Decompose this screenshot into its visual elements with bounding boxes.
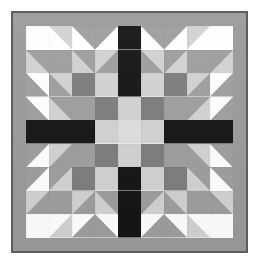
quilt-patch [187,73,210,97]
quilt-patch [118,73,141,97]
quilt-patch [72,214,95,238]
quilt-patch [118,97,141,121]
quilt-patch [118,26,141,50]
quilt-patch [72,191,95,215]
quilt-patch [164,50,187,74]
quilt-patch [95,73,118,97]
quilt-patch [164,191,187,215]
quilt-patch [187,214,210,238]
quilt-patch [49,191,72,215]
quilt-patch [141,167,164,191]
quilt-patch [187,144,210,168]
quilt-patch [187,191,210,215]
quilt-patch [118,191,141,215]
quilt-patch [72,26,95,50]
quilt-patch [26,144,49,168]
quilt-patch [210,214,233,238]
quilt-patch [164,120,187,144]
quilt-patch [72,120,95,144]
quilt-patch [118,50,141,74]
page-canvas [0,0,260,263]
quilt-patch [210,97,233,121]
quilt-patch [141,120,164,144]
quilt-patch [187,120,210,144]
quilt-patch [118,120,141,144]
quilt-patch [49,97,72,121]
quilt-patch [141,97,164,121]
quilt-patch [49,26,72,50]
quilt-patch [210,120,233,144]
quilt-patch [72,50,95,74]
quilt-patch [49,73,72,97]
quilt-patch [26,26,49,50]
quilt-patch [141,26,164,50]
quilt-patch [210,191,233,215]
quilt-patch [187,50,210,74]
quilt-patch [49,50,72,74]
quilt-patch [187,167,210,191]
quilt-frame [11,11,248,253]
quilt-patch [210,167,233,191]
quilt-patch [95,26,118,50]
quilt-patch [187,26,210,50]
quilt-patch [95,214,118,238]
quilt-patch [210,26,233,50]
quilt-patch [164,97,187,121]
quilt-patch [72,73,95,97]
quilt-patch [72,97,95,121]
quilt-patch [26,73,49,97]
quilt-patch [141,191,164,215]
quilt-patch [72,144,95,168]
quilt-patch [210,73,233,97]
quilt-patch [72,167,95,191]
quilt-patch-grid [26,26,233,238]
quilt-patch [118,214,141,238]
quilt-patch [49,144,72,168]
quilt-patch [26,191,49,215]
quilt-patch [141,50,164,74]
quilt-patch [118,167,141,191]
quilt-patch [49,167,72,191]
quilt-patch [141,214,164,238]
quilt-patch [49,120,72,144]
quilt-patch [210,144,233,168]
quilt-patch [26,167,49,191]
quilt-patch [95,144,118,168]
quilt-patch [187,97,210,121]
quilt-patch [95,120,118,144]
quilt-border-band [13,13,246,251]
quilt-patch [95,167,118,191]
quilt-patch [95,191,118,215]
quilt-patch [49,214,72,238]
quilt-patch [95,50,118,74]
quilt-patch [210,50,233,74]
quilt-patch [141,144,164,168]
quilt-patch [164,144,187,168]
quilt-patch [118,144,141,168]
quilt-patch [164,167,187,191]
quilt-patch [164,26,187,50]
quilt-patch [164,73,187,97]
quilt-patch [26,50,49,74]
quilt-patch [26,120,49,144]
quilt-patch [141,73,164,97]
quilt-patch [26,97,49,121]
quilt-patch [164,214,187,238]
quilt-patch [26,214,49,238]
quilt-patch [95,97,118,121]
